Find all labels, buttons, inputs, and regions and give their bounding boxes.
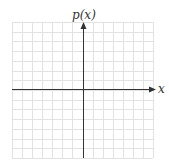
x-axis-label: x [158, 82, 165, 96]
coordinate-grid: p(x) x [0, 0, 169, 166]
y-axis-arrow-icon [81, 22, 87, 29]
x-axis-arrow-icon [149, 87, 156, 93]
grid-lines [12, 22, 154, 159]
y-axis-label: p(x) [72, 8, 96, 22]
